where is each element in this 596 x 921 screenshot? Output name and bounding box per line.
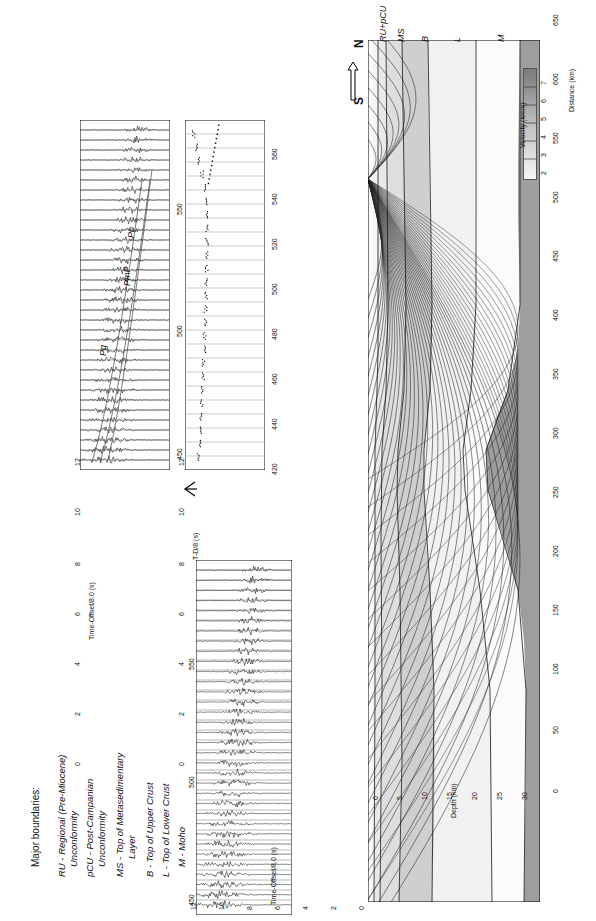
model-ytick-5: 5 [396, 796, 403, 800]
travel-time-pick [198, 457, 199, 458]
travel-time-pick [207, 229, 208, 230]
travel-time-pick [205, 305, 206, 306]
travel-time-pick [201, 433, 202, 434]
mid-xtick-560: 560 [271, 148, 278, 160]
travel-time-pick [200, 172, 201, 173]
model-xtick-550: 550 [552, 132, 559, 144]
record-section-synthetic-plot [196, 560, 292, 915]
mid-xtick-420: 420 [271, 463, 278, 475]
mid-ytick-12: 12 [178, 458, 185, 466]
direction-label-n: N [352, 39, 366, 48]
travel-time-pick [205, 271, 206, 272]
travel-time-pick [216, 138, 217, 139]
travel-time-pick [206, 307, 207, 308]
travel-time-pick [200, 175, 201, 176]
bl-ylabel: Time-Offset/8.0 (s) [270, 847, 277, 905]
legend-block: Major boundaries: RU - Regional (Pre-Mio… [8, 615, 158, 915]
model-label-ru-pcu: RU+pCU [378, 6, 388, 42]
travel-time-pick [204, 293, 205, 294]
model-label-m: M [496, 35, 506, 43]
travel-time-pick [206, 280, 207, 281]
travel-time-pick [201, 430, 202, 431]
travel-time-pick [203, 177, 204, 178]
colorbar-tick-4: 4 [540, 135, 547, 139]
model-label-l: L [452, 37, 462, 42]
travel-time-pick [204, 309, 205, 310]
bl-ytick-0: 0 [358, 906, 365, 910]
phase-label-pmp: PmP [122, 266, 132, 286]
travel-time-pick [197, 147, 198, 148]
travel-time-pick [212, 160, 213, 161]
travel-time-pick [208, 244, 209, 245]
travel-time-pick [205, 324, 206, 325]
travel-time-pick [207, 278, 208, 279]
travel-time-pick [198, 164, 199, 165]
record-section-observed-plot [80, 120, 170, 470]
travel-time-pick [206, 253, 207, 254]
travel-time-pick [206, 265, 207, 266]
colorbar-title: Velocity (km/s) [519, 102, 526, 148]
travel-time-pick [204, 319, 205, 320]
travel-time-pick [204, 350, 205, 351]
travel-time-pick [202, 389, 203, 390]
travel-time-pick [206, 214, 207, 215]
travel-time-pick [196, 145, 197, 146]
travel-time-pick [206, 320, 207, 321]
mid-xtick-440: 440 [271, 418, 278, 430]
mid-xtick-540: 540 [271, 193, 278, 205]
model-xlabel: Distance (km) [568, 69, 575, 112]
mid-xtick-460: 460 [271, 373, 278, 385]
tl-xtick-500: 500 [176, 325, 183, 337]
travel-time-pick [193, 132, 194, 133]
record-section-picks-panel [185, 120, 265, 470]
mid-ytick-2: 2 [178, 712, 185, 716]
travel-time-pick [213, 151, 214, 152]
model-xtick-650: 650 [552, 14, 559, 26]
travel-time-pick [206, 258, 207, 259]
tl-ytick-8: 8 [74, 562, 81, 566]
phase-label-pn: Pn [126, 227, 136, 238]
travel-time-pick [206, 285, 207, 286]
travel-time-pick [217, 129, 218, 130]
travel-time-pick [204, 361, 205, 362]
model-xtick-450: 450 [552, 250, 559, 262]
travel-time-pick [202, 359, 203, 360]
travel-time-pick [201, 400, 202, 401]
travel-time-pick [208, 183, 209, 184]
travel-time-pick [201, 386, 202, 387]
travel-time-pick [206, 282, 207, 283]
travel-time-pick [207, 217, 208, 218]
tl-ytick-12: 12 [74, 458, 81, 466]
travel-time-pick [194, 137, 195, 138]
legend-item-ms-cont: Layer [126, 835, 137, 859]
travel-time-pick [204, 332, 205, 333]
travel-time-pick [215, 142, 216, 143]
model-ytick-25: 25 [496, 792, 503, 800]
tl-ytick-2: 2 [74, 712, 81, 716]
model-ytick-10: 10 [421, 792, 428, 800]
colorbar-tick-3: 3 [540, 153, 547, 157]
travel-time-pick [206, 201, 207, 202]
travel-time-pick [205, 238, 206, 239]
travel-time-pick [205, 184, 206, 185]
travel-time-pick [206, 199, 207, 200]
travel-time-pick [205, 268, 206, 269]
travel-time-pick [202, 404, 203, 405]
travel-time-pick [204, 379, 205, 380]
travel-time-pick [211, 165, 212, 166]
travel-time-pick [199, 455, 200, 456]
mid-ytick-10: 10 [178, 508, 185, 516]
travel-time-pick [206, 204, 207, 205]
travel-time-pick [203, 337, 204, 338]
travel-time-pick [217, 134, 218, 135]
travel-time-pick [206, 310, 207, 311]
travel-time-pick [200, 428, 201, 429]
phase-label-pg: Pg [98, 345, 108, 356]
travel-time-pick [206, 202, 207, 203]
travel-time-pick [200, 446, 201, 447]
travel-time-pick [205, 352, 206, 353]
travel-time-pick [205, 186, 206, 187]
legend-item-ru: RU - Regional (Pre-Miocene) [56, 755, 67, 877]
travel-time-pick [213, 156, 214, 157]
travel-time-pick [210, 169, 211, 170]
